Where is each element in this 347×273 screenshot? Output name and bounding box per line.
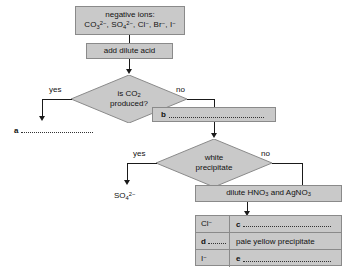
node-decision-white-precipitate: white precipitate xyxy=(156,139,272,187)
answer-a-letter: a xyxy=(14,126,18,135)
negative-ions-formulas: CO32−, SO42−, Cl−, Br−, I− xyxy=(84,20,175,31)
connector-decision1-yes-h xyxy=(42,99,72,100)
table-row: d pale yellow precipitate xyxy=(196,233,341,250)
node-answer-b: b xyxy=(152,107,276,122)
edge-label-no-2: no xyxy=(261,149,270,158)
arrow-into-decision1 xyxy=(126,69,132,74)
answer-d-letter: d xyxy=(201,237,206,246)
connector-start-to-acid xyxy=(129,35,130,43)
node-add-dilute-acid: add dilute acid xyxy=(86,43,173,59)
node-negative-ions: negative ions: CO32−, SO42−, Cl−, Br−, I… xyxy=(75,6,185,35)
table-cell-observation: e xyxy=(230,250,341,267)
ion-chloride: Cl− xyxy=(201,219,212,228)
negative-ions-heading: negative ions: xyxy=(105,10,154,20)
arrow-to-answer-a xyxy=(39,116,45,121)
decision-white-line2: precipitate xyxy=(196,163,233,173)
decision-white-label: white precipitate xyxy=(156,139,272,187)
node-sulfate-ion: SO42− xyxy=(114,191,135,201)
connector-decision1-no-v xyxy=(214,99,215,107)
flowchart-canvas: negative ions: CO32−, SO42−, Cl−, Br−, I… xyxy=(0,0,347,273)
ion-iodide: I− xyxy=(201,254,207,263)
connector-decision2-no-h xyxy=(272,163,302,164)
add-dilute-acid-label: add dilute acid xyxy=(104,46,156,56)
answer-c-blank xyxy=(243,221,331,228)
arrow-to-sulfate xyxy=(124,180,130,185)
connector-decision1-no-h xyxy=(187,99,214,100)
answer-a-blank xyxy=(21,126,93,133)
edge-label-no-1: no xyxy=(176,85,185,94)
table-cell-ion: Cl− xyxy=(196,216,230,232)
decision-white-line1: white xyxy=(196,153,233,163)
table-cell-ion: d xyxy=(196,233,230,249)
table-cell-ion: I− xyxy=(196,250,230,267)
answer-c-letter: c xyxy=(236,220,240,229)
connector-decision2-yes-h xyxy=(127,163,157,164)
arrow-into-decision2 xyxy=(211,133,217,138)
answer-blank-a: a xyxy=(14,126,93,135)
table-cell-observation: pale yellow precipitate xyxy=(230,233,341,249)
table-row: I− e xyxy=(196,250,341,267)
answer-b-letter: b xyxy=(161,110,166,120)
observation-pale-yellow: pale yellow precipitate xyxy=(236,237,315,246)
decision-co2-subscript: 2 xyxy=(137,92,140,98)
edge-label-yes-2: yes xyxy=(133,149,145,158)
table-cell-observation: c xyxy=(230,216,341,232)
edge-label-yes-1: yes xyxy=(49,85,61,94)
table-row: Cl− c xyxy=(196,216,341,233)
answer-e-letter: e xyxy=(236,254,240,263)
decision-co2-line1: is CO xyxy=(117,89,137,98)
answer-d-blank xyxy=(208,238,226,245)
results-table: Cl− c d pale yellow precipitate I− e xyxy=(195,215,342,266)
connector-decision2-no-v xyxy=(302,163,303,185)
answer-e-blank xyxy=(243,255,331,262)
reagents-label: dilute HNO3 and AgNO3 xyxy=(226,188,311,198)
decision-co2-line2: produced? xyxy=(110,99,148,109)
answer-b-blank xyxy=(169,111,264,118)
node-silver-nitrate-reagents: dilute HNO3 and AgNO3 xyxy=(195,185,342,202)
